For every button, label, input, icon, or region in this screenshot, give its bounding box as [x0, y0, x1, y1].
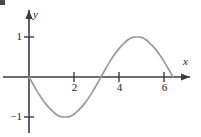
sine-curve-figure: 2 4 6 1 −1 x y — [0, 0, 201, 137]
x-tick-label-6: 6 — [159, 82, 170, 93]
y-axis-group — [24, 10, 34, 133]
x-axis-label: x — [183, 56, 188, 67]
y-axis-arrowhead — [25, 10, 32, 19]
x-tick-label-4: 4 — [114, 82, 125, 93]
y-axis-label: y — [33, 9, 38, 20]
x-tick-label-2: 2 — [69, 82, 80, 93]
y-tick-label-minus-1: −1 — [4, 111, 22, 122]
plot-canvas — [0, 0, 201, 137]
x-axis-arrowhead — [181, 73, 190, 80]
y-tick-label-1: 1 — [9, 31, 22, 42]
